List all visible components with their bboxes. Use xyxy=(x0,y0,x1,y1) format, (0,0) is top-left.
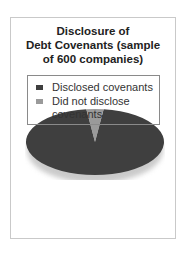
chart-frame: Disclosure of Debt Covenants (sample of … xyxy=(10,17,176,239)
legend-item-not-disclosed: Did not disclose covenants xyxy=(36,95,130,121)
legend-swatch-not-disclosed xyxy=(36,99,43,104)
legend-label-not-disclosed: Did not disclose covenants xyxy=(52,95,130,121)
chart-title-line-1: Disclosure of xyxy=(11,24,175,38)
legend-swatch-disclosed xyxy=(36,85,43,90)
chart-legend: Disclosed covenants Did not disclose cov… xyxy=(27,75,160,125)
legend-label-disclosed: Disclosed covenants xyxy=(52,81,153,94)
legend-item-disclosed: Disclosed covenants xyxy=(36,81,153,94)
